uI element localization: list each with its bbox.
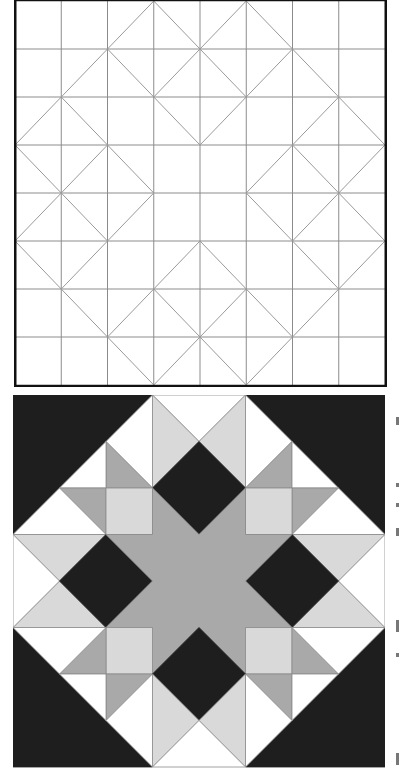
diagonal-seam-line — [154, 241, 200, 289]
diagonal-seam-line — [246, 1, 385, 145]
diagonal-seam-line — [293, 193, 339, 241]
diagonal-seam-line — [246, 289, 292, 337]
diagonal-seam-line — [154, 97, 200, 145]
line-drawing-panel — [14, 0, 387, 387]
margin-text-fragment — [396, 653, 399, 657]
diagonal-seam-line — [246, 49, 292, 97]
diagonal-seam-line — [339, 193, 385, 241]
margin-text-fragment — [396, 503, 399, 507]
diagonal-seam-line — [61, 241, 107, 289]
diagonal-seam-line — [339, 145, 385, 193]
quilt-piece-tl-light-square — [106, 488, 153, 535]
diagonal-seam-line — [246, 193, 292, 241]
diagonal-seam-line — [15, 241, 154, 385]
diagonal-seam-line — [108, 145, 154, 193]
margin-text-fragment — [396, 620, 399, 632]
diagonal-seam-line — [154, 1, 200, 49]
diagonal-seam-line — [15, 145, 61, 193]
colored-quilt-panel — [13, 395, 385, 776]
quilt-piece-tr-light-square — [246, 488, 293, 535]
quilt-block-diagram — [13, 395, 385, 776]
margin-text-fragment — [396, 417, 399, 425]
quilt-piece-bl-light-square — [106, 628, 153, 675]
diagonal-seam-line — [200, 97, 246, 145]
diagonal-seam-line — [200, 337, 246, 385]
diagonal-seam-line — [293, 145, 339, 193]
margin-notes — [394, 395, 405, 776]
diagonal-seam-line — [200, 289, 246, 337]
diagonal-seam-line — [61, 145, 107, 193]
quilt-line-diagram — [14, 0, 387, 387]
diagonal-seam-line — [200, 241, 246, 289]
diagonal-seam-line — [154, 337, 200, 385]
diagonal-seam-line — [246, 241, 385, 385]
diagonal-seam-line — [15, 1, 154, 145]
margin-text-fragment — [396, 753, 399, 765]
margin-text-fragment — [396, 528, 399, 536]
diagonal-seam-line — [200, 49, 246, 97]
diagonal-seam-line — [108, 49, 154, 97]
diagonal-seam-line — [293, 241, 339, 289]
diagonal-seam-line — [293, 97, 339, 145]
diagonal-seam-line — [200, 1, 246, 49]
diagonal-seam-line — [246, 145, 292, 193]
margin-text-fragment — [396, 483, 399, 487]
diagonal-seam-line — [15, 193, 61, 241]
diagonal-seam-line — [154, 49, 200, 97]
quilt-piece-br-light-square — [246, 628, 293, 675]
diagonal-seam-line — [61, 193, 107, 241]
diagonal-seam-line — [61, 97, 107, 145]
diagonal-seam-line — [108, 193, 154, 241]
diagonal-seam-line — [154, 289, 200, 337]
diagonal-seam-line — [108, 289, 154, 337]
